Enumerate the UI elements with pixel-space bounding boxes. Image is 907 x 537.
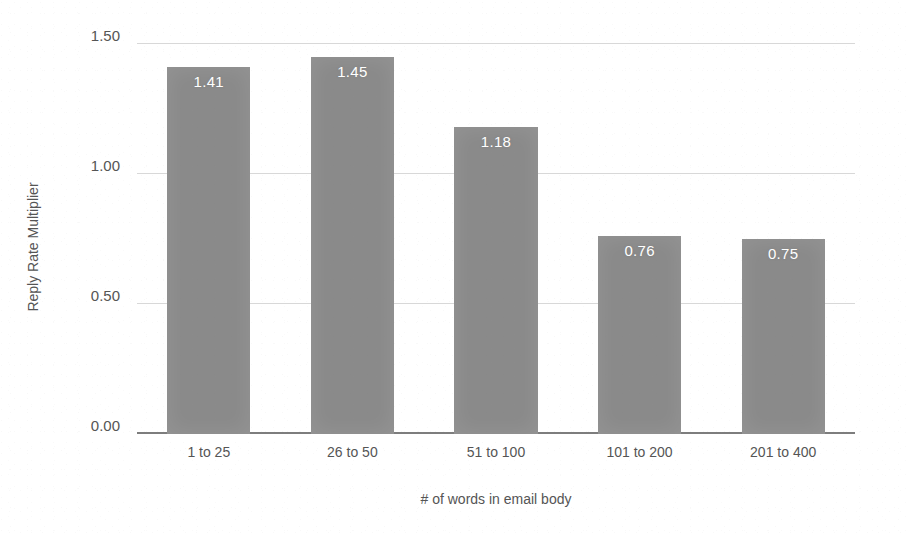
y-tick-label-3: 1.50 [58, 26, 120, 43]
x-tick-label-0: 1 to 25 [137, 444, 281, 460]
y-axis-tick-labels: 1.50 1.00 0.50 0.00 [58, 44, 120, 434]
x-axis-title: # of words in email body [137, 491, 855, 507]
x-tick-label-4: 201 to 400 [711, 444, 855, 460]
bar[interactable]: 1.41 [167, 67, 250, 434]
bar-slot: 0.76 [568, 44, 712, 434]
bar-value-label: 0.76 [598, 242, 681, 259]
bar-value-label: 0.75 [742, 245, 825, 262]
x-axis-tick-labels: 1 to 25 26 to 50 51 to 100 101 to 200 20… [137, 444, 855, 460]
bars-layer: 1.41 1.45 1.18 0.76 0.75 [137, 44, 855, 434]
bar[interactable]: 1.45 [311, 57, 394, 434]
bar[interactable]: 0.75 [742, 239, 825, 434]
bar-value-label: 1.18 [454, 133, 537, 150]
bar-chart-figure: 1.50 1.00 0.50 0.00 Reply Rate Multiplie… [0, 0, 907, 537]
bar-value-label: 1.41 [167, 73, 250, 90]
plot-area: 1.41 1.45 1.18 0.76 0.75 [137, 44, 855, 434]
y-tick-label-0: 0.00 [58, 416, 120, 433]
y-tick-label-1: 0.50 [58, 286, 120, 303]
bar-slot: 1.18 [424, 44, 568, 434]
bar[interactable]: 1.18 [454, 127, 537, 434]
bar-slot: 1.41 [137, 44, 281, 434]
bar-slot: 0.75 [711, 44, 855, 434]
x-tick-label-2: 51 to 100 [424, 444, 568, 460]
x-tick-label-1: 26 to 50 [281, 444, 425, 460]
bar-value-label: 1.45 [311, 63, 394, 80]
bar[interactable]: 0.76 [598, 236, 681, 434]
y-tick-label-2: 1.00 [58, 156, 120, 173]
y-axis-title: Reply Rate Multiplier [25, 147, 41, 347]
x-tick-label-3: 101 to 200 [568, 444, 712, 460]
bar-slot: 1.45 [281, 44, 425, 434]
